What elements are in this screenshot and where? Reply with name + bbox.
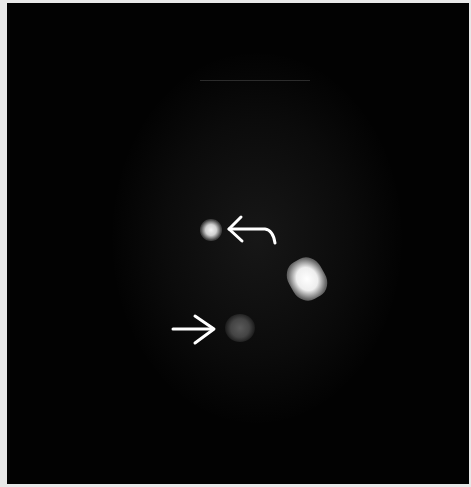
curved-arrow-icon <box>229 217 275 243</box>
image-frame <box>0 0 471 487</box>
annotation-layer <box>7 3 469 484</box>
straight-arrow-icon <box>173 316 214 343</box>
scan-image <box>7 3 469 484</box>
